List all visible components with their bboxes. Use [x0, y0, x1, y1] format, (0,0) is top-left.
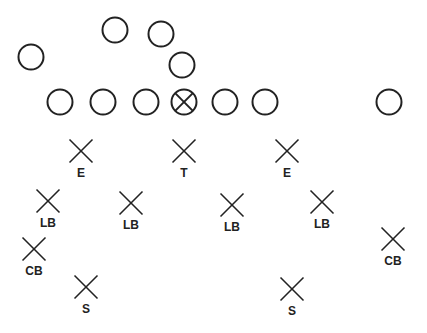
- position-label: T: [180, 166, 188, 180]
- position-label: CB: [384, 254, 402, 268]
- formation-diagram: ETELBLBLBLBCBCBSS: [0, 0, 427, 333]
- offense-player-circle-icon: [253, 90, 278, 115]
- position-label: E: [283, 166, 291, 180]
- position-label: S: [288, 304, 296, 318]
- x-mark-icon: [221, 194, 244, 217]
- defense-player-s: S: [281, 278, 304, 319]
- center-player-icon: [172, 90, 197, 115]
- defense-player-e: E: [276, 140, 299, 181]
- defense-player-cb: CB: [382, 228, 405, 269]
- defense-player-lb: LB: [37, 190, 60, 231]
- position-label: LB: [314, 217, 330, 231]
- x-mark-icon: [75, 276, 98, 299]
- offense-player-circle-icon: [213, 90, 238, 115]
- position-label: E: [77, 166, 85, 180]
- defense-player-lb: LB: [311, 191, 334, 232]
- defense-player-cb: CB: [23, 238, 46, 279]
- defense-player-lb: LB: [221, 194, 244, 235]
- x-mark-icon: [23, 238, 46, 261]
- defense-player-t: T: [173, 140, 196, 181]
- x-mark-icon: [37, 190, 60, 213]
- offense-players: [19, 18, 402, 115]
- defense-player-s: S: [75, 276, 98, 317]
- x-mark-icon: [382, 228, 405, 251]
- x-mark-icon: [120, 192, 143, 215]
- defense-player-lb: LB: [120, 192, 143, 233]
- position-label: LB: [40, 216, 56, 230]
- offense-player-circle-icon: [377, 90, 402, 115]
- offense-player-circle-icon: [103, 18, 128, 43]
- offense-player-circle-icon: [149, 22, 174, 47]
- offense-player-circle-icon: [91, 90, 116, 115]
- x-mark-icon: [173, 140, 196, 163]
- offense-player-circle-icon: [48, 90, 73, 115]
- position-label: S: [82, 302, 90, 316]
- defense-player-e: E: [70, 140, 93, 181]
- x-mark-icon: [311, 191, 334, 214]
- x-mark-icon: [281, 278, 304, 301]
- defense-players: ETELBLBLBLBCBCBSS: [23, 140, 405, 319]
- offense-player-circle-icon: [134, 90, 159, 115]
- offense-player-circle-icon: [19, 45, 44, 70]
- position-label: LB: [123, 218, 139, 232]
- position-label: CB: [25, 264, 43, 278]
- x-mark-icon: [276, 140, 299, 163]
- offense-player-circle-icon: [170, 53, 195, 78]
- x-mark-icon: [70, 140, 93, 163]
- position-label: LB: [224, 220, 240, 234]
